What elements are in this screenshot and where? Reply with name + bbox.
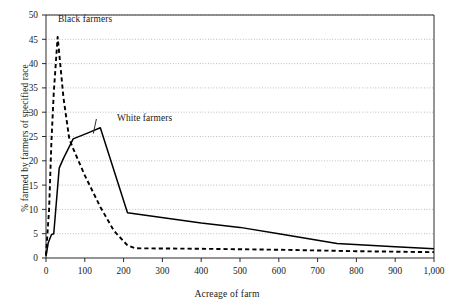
series-annotation-black-farmers: Black farmers [58,14,112,24]
x-tick-label-600: 600 [272,266,286,276]
x-tick-label-100: 100 [78,266,92,276]
series-annotation-white-farmers: White farmers [117,113,172,123]
x-tick-label-400: 400 [194,266,208,276]
y-tick-label-20: 20 [29,156,39,166]
x-tick-label-800: 800 [349,266,363,276]
chart-plot-area: 0510152025303540455001002003004005006007… [0,0,454,307]
y-tick-label-15: 15 [29,181,39,191]
series-line-white-farmers [46,128,434,256]
annotation-leader-white-farmers [93,119,96,134]
x-tick-label-300: 300 [155,266,169,276]
x-tick-label-900: 900 [388,266,402,276]
x-tick-label-200: 200 [117,266,131,276]
chart-figure: 0510152025303540455001002003004005006007… [0,0,454,307]
y-tick-label-0: 0 [33,253,38,263]
y-tick-label-25: 25 [29,132,39,142]
y-tick-label-50: 50 [29,10,39,20]
x-tick-label-500: 500 [233,266,247,276]
x-tick-label-700: 700 [311,266,325,276]
x-tick-label-1000: 1,000 [423,266,444,276]
y-tick-label-5: 5 [33,229,38,239]
y-tick-label-45: 45 [29,35,39,45]
x-axis-label: Acreage of farm [0,288,454,299]
y-tick-label-40: 40 [29,59,39,69]
y-tick-label-30: 30 [29,108,39,118]
x-tick-label-0: 0 [44,266,49,276]
series-line-black-farmers [46,37,434,255]
y-tick-label-10: 10 [29,205,39,215]
x-axis-label-text: Acreage of farm [194,288,259,299]
y-tick-label-35: 35 [29,83,39,93]
